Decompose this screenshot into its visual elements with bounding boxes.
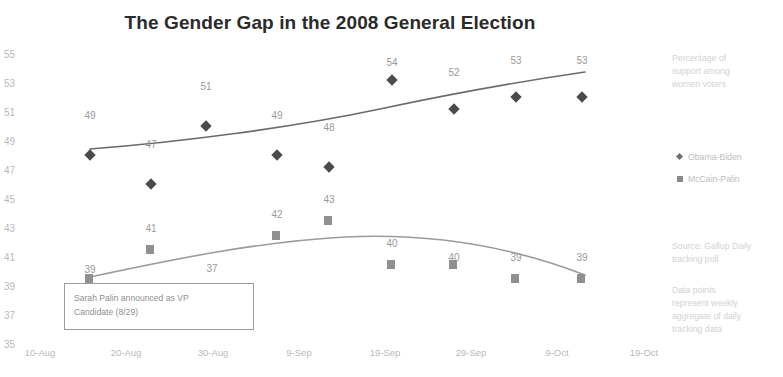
y-axis-tick: 51 xyxy=(4,108,34,118)
method-line-1: Data points xyxy=(672,284,780,297)
annotation-line-1: Sarah Palin announced as VP xyxy=(74,291,244,305)
axis-description-note: Percentage of support among women voters xyxy=(672,52,780,91)
legend-item-obama-biden[interactable]: Obama-Biden xyxy=(676,146,781,168)
x-axis-tick: 9-Oct xyxy=(545,347,568,358)
y-axis-tick: 41 xyxy=(4,253,34,263)
legend-item-mccain-palin[interactable]: McCain-Palin xyxy=(676,168,781,190)
chart-container: The Gender Gap in the 2008 General Elect… xyxy=(0,0,783,377)
data-label: 37 xyxy=(206,264,217,274)
data-label: 53 xyxy=(576,56,587,66)
source-line-1: Source: Gallup Daily xyxy=(672,240,780,253)
data-label: 49 xyxy=(271,111,282,121)
series-obama-biden-markers xyxy=(84,74,587,189)
x-axis-tick: 20-Aug xyxy=(111,347,142,358)
diamond-marker-icon xyxy=(676,153,684,161)
chart-title: The Gender Gap in the 2008 General Elect… xyxy=(0,12,660,34)
data-label: 41 xyxy=(145,224,156,234)
legend-label: Obama-Biden xyxy=(688,152,742,162)
y-axis-tick: 45 xyxy=(4,195,34,205)
data-label: 48 xyxy=(323,123,334,133)
chart-legend: Obama-Biden McCain-Palin xyxy=(676,146,781,190)
y-axis-tick: 49 xyxy=(4,137,34,147)
data-label: 54 xyxy=(386,58,397,68)
data-label: 39 xyxy=(84,265,95,275)
axis-description-line-3: women voters xyxy=(672,78,780,91)
method-line-2: represent weekly xyxy=(672,297,780,310)
square-marker-icon xyxy=(676,175,684,183)
x-axis-tick: 29-Sep xyxy=(456,347,487,358)
x-axis-tick: 10-Aug xyxy=(25,347,56,358)
axis-description-line-1: Percentage of xyxy=(672,52,780,65)
data-label: 40 xyxy=(386,239,397,249)
legend-label: McCain-Palin xyxy=(688,174,740,184)
data-label: 49 xyxy=(84,111,95,121)
annotation-callout: Sarah Palin announced as VP Candidate (8… xyxy=(64,283,254,330)
source-note: Source: Gallup Daily tracking poll xyxy=(672,240,780,266)
annotation-line-2: Candidate (8/29) xyxy=(74,305,244,319)
y-axis-tick: 53 xyxy=(4,79,34,89)
x-axis-tick: 19-Oct xyxy=(630,347,659,358)
data-label: 53 xyxy=(510,56,521,66)
data-label: 47 xyxy=(145,140,156,150)
x-axis-tick: 30-Aug xyxy=(198,347,229,358)
data-label: 39 xyxy=(576,253,587,263)
trendline-obama-biden xyxy=(90,72,585,149)
x-axis-tick: 9-Sep xyxy=(286,347,311,358)
y-axis-tick: 43 xyxy=(4,224,34,234)
methodology-note: Data points represent weekly aggregate o… xyxy=(672,284,780,336)
data-label: 39 xyxy=(510,253,521,263)
y-axis-tick: 39 xyxy=(4,282,34,292)
x-axis-tick: 19-Sep xyxy=(370,347,401,358)
data-label: 42 xyxy=(271,210,282,220)
data-label: 40 xyxy=(448,253,459,263)
data-label: 43 xyxy=(323,195,334,205)
source-line-2: tracking poll xyxy=(672,253,780,266)
y-axis-tick: 37 xyxy=(4,311,34,321)
method-line-3: aggregate of daily xyxy=(672,310,780,323)
method-line-4: tracking data xyxy=(672,323,780,336)
data-label: 51 xyxy=(200,82,211,92)
y-axis-tick: 55 xyxy=(4,50,34,60)
data-label: 52 xyxy=(448,68,459,78)
axis-description-line-2: support among xyxy=(672,65,780,78)
y-axis-tick: 47 xyxy=(4,166,34,176)
